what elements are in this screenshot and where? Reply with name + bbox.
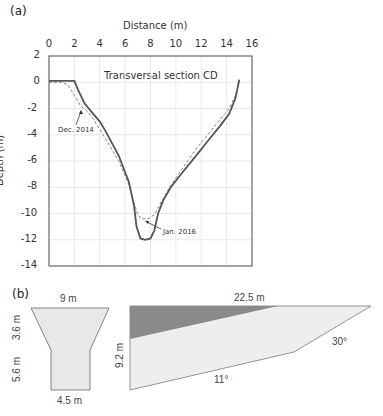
chart-canvas: [0, 0, 383, 416]
right-top-length-label: 22.5 m: [234, 292, 265, 303]
right-bottom-angle-label: 11°: [214, 374, 228, 385]
arrowhead-dec-2014: [79, 110, 83, 114]
left-section-shape: [31, 308, 109, 390]
series-jan-2016-line: [49, 80, 239, 240]
right-side-angle-label: 30°: [332, 336, 347, 347]
panel-b-label: (b): [12, 287, 29, 301]
arrowhead-jan-2016: [145, 221, 149, 224]
right-height-label: 9.2 m: [114, 343, 125, 368]
left-bottom-width-label: 4.5 m: [57, 395, 82, 406]
left-lower-height-label: 5.6 m: [11, 357, 22, 382]
series-dec-2014-line: [49, 81, 239, 219]
left-top-width-label: 9 m: [60, 293, 77, 304]
chart-grid: [49, 56, 252, 266]
left-upper-height-label: 3.6 m: [11, 315, 22, 340]
